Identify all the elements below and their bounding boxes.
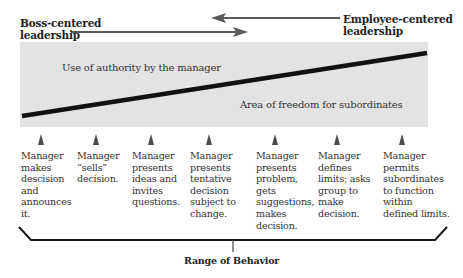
pointer-icon [38,134,44,145]
behavior-line: “sells” [77,162,119,174]
behavior-line: decision [190,185,236,197]
behavior-line: Manager [318,150,370,162]
behavior-line: limits; asks [318,173,370,185]
behavior-line: questions. [132,196,180,208]
behavior-6: Manager defines limits; asks group to ma… [318,150,370,220]
pointer-icon [272,134,278,145]
behavior-line: problem, [256,173,314,185]
behavior-line: Manager [190,150,236,162]
behavior-line: decision. [318,208,370,220]
behavior-line: presents [190,162,236,174]
diagonal-divider [0,0,463,278]
authority-label: Use of authority by the manager [62,62,221,73]
behavior-line: to function [383,185,450,197]
range-bracket [19,227,447,252]
behavior-line: decision. [256,220,314,232]
behavior-line: defines [318,162,370,174]
behavior-line: invites [132,185,180,197]
employee-centered-heading: Employee-centered leadership [343,13,453,37]
employee-centered-line1: Employee-centered [343,13,453,25]
employee-centered-line2: leadership [343,25,453,37]
behavior-4: Manager presents tentative decision subj… [190,150,236,220]
behavior-line: permits [383,162,450,174]
pointer-icon [334,134,340,145]
behavior-line: tentative [190,173,236,185]
behavior-line: make [318,196,370,208]
behavior-line: descision [21,173,71,185]
behavior-line: announces [21,196,71,208]
behavior-line: presents [132,162,180,174]
behavior-line: it. [21,208,71,220]
behavior-line: Manager [77,150,119,162]
behavior-line: subject to [190,196,236,208]
behavior-line: presents [256,162,314,174]
behavior-3: Manager presents ideas and invites quest… [132,150,180,208]
behavior-line: subordinates [383,173,450,185]
boss-centered-line1: Boss-centered [20,17,101,29]
freedom-label: Area of freedom for subordinates [240,99,403,110]
behavior-line: makes [21,162,71,174]
behavior-line: within [383,196,450,208]
behavior-line: change. [190,208,236,220]
behavior-line: group to [318,185,370,197]
pointer-icon [206,134,212,145]
range-of-behavior-label: Range of Behavior [184,255,279,266]
behavior-7: Manager permits subordinates to function… [383,150,450,220]
behavior-2: Manager “sells” decision. [77,150,119,185]
behavior-line: makes [256,208,314,220]
behavior-line: decision. [77,173,119,185]
behavior-line: defined limits. [383,208,450,220]
behavior-line: Manager [256,150,314,162]
behavior-1: Manager makes descision and announces it… [21,150,71,220]
behavior-line: Manager [21,150,71,162]
behavior-line: ideas and [132,173,180,185]
pointer-icon [399,134,405,145]
pointer-icon [93,134,99,145]
behavior-line: and [21,185,71,197]
behavior-5: Manager presents problem, gets suggestio… [256,150,314,231]
boss-centered-line2: leadership [20,29,101,41]
boss-centered-heading: Boss-centered leadership [20,17,101,41]
pointer-icon [148,134,154,145]
behavior-line: suggestions, [256,196,314,208]
behavior-line: Manager [132,150,180,162]
behavior-line: Manager [383,150,450,162]
behavior-line: gets [256,185,314,197]
